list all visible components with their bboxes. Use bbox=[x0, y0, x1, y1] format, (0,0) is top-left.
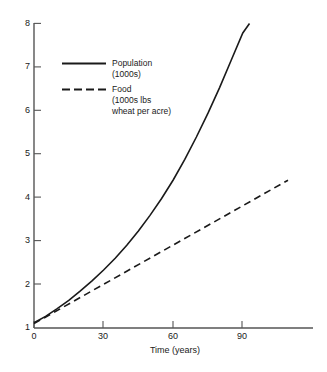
y-tick-label-3: 3 bbox=[16, 236, 30, 245]
legend-detail-food-1: (1000s lbs bbox=[112, 95, 151, 106]
y-tick-label-7: 7 bbox=[16, 62, 30, 71]
y-tick-label-4: 4 bbox=[16, 193, 30, 202]
y-tick-label-8: 8 bbox=[16, 19, 30, 28]
series-food-line bbox=[34, 180, 288, 323]
y-tick-label-5: 5 bbox=[16, 149, 30, 158]
x-tick-label-30: 30 bbox=[93, 332, 113, 341]
legend-label-food: Food bbox=[112, 84, 131, 95]
legend-detail-population: (1000s) bbox=[112, 69, 141, 80]
x-axis-title: Time (years) bbox=[120, 345, 230, 355]
chart-figure: 8 7 6 5 4 3 2 1 0 30 60 90 Time (years) … bbox=[0, 0, 327, 372]
legend-label-population: Population bbox=[112, 58, 152, 69]
y-tick-label-2: 2 bbox=[16, 280, 30, 289]
chart-plot-area bbox=[0, 0, 327, 372]
x-tick-label-90: 90 bbox=[232, 332, 252, 341]
y-tick-label-1: 1 bbox=[16, 323, 30, 332]
x-axis-ticks bbox=[34, 321, 242, 328]
x-tick-label-60: 60 bbox=[163, 332, 183, 341]
y-axis-ticks bbox=[34, 23, 41, 284]
y-tick-label-6: 6 bbox=[16, 106, 30, 115]
legend-detail-food-2: wheat per acre) bbox=[112, 106, 171, 117]
x-tick-label-0: 0 bbox=[24, 332, 44, 341]
